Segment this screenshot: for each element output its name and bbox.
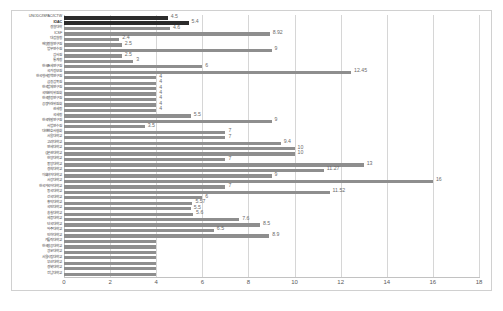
x-tick-label: 12 bbox=[337, 279, 344, 285]
x-tick-label: 16 bbox=[430, 279, 437, 285]
bar-value-label: 7 bbox=[228, 155, 231, 161]
bar bbox=[64, 240, 156, 243]
bar-value-label: 4.6 bbox=[173, 24, 180, 30]
bar bbox=[64, 202, 192, 205]
x-axis-line bbox=[64, 277, 480, 278]
bar-value-label: 12.45 bbox=[354, 67, 367, 73]
bar bbox=[64, 174, 272, 177]
bar bbox=[64, 147, 295, 150]
x-tick-label: 6 bbox=[201, 279, 204, 285]
category-label: 전남대학교 bbox=[47, 271, 62, 276]
bar bbox=[64, 191, 330, 194]
bar-value-label: 6 bbox=[205, 62, 208, 68]
gridline bbox=[479, 15, 480, 277]
bar-value-label: 2.5 bbox=[125, 40, 132, 46]
bar bbox=[64, 16, 168, 20]
x-tick-label: 2 bbox=[108, 279, 111, 285]
bar bbox=[64, 136, 225, 139]
bar bbox=[64, 142, 281, 145]
x-tick-label: 18 bbox=[476, 279, 483, 285]
bar bbox=[64, 223, 260, 226]
bar bbox=[64, 245, 156, 248]
bar-value-label: 9 bbox=[275, 116, 278, 122]
bar bbox=[64, 21, 189, 25]
x-tick-label: 10 bbox=[291, 279, 298, 285]
bar bbox=[64, 158, 225, 161]
bar bbox=[64, 98, 156, 101]
bar bbox=[64, 218, 239, 221]
bar bbox=[64, 76, 156, 79]
bar bbox=[64, 71, 351, 74]
bar bbox=[64, 262, 156, 265]
bar-value-label: 7 bbox=[228, 133, 231, 139]
bar-value-label: 9 bbox=[275, 45, 278, 51]
bar-value-label: 5.4 bbox=[192, 18, 199, 24]
bar bbox=[64, 114, 191, 117]
bar bbox=[64, 43, 122, 46]
bar-value-label: 5.5 bbox=[194, 111, 201, 117]
bar bbox=[64, 120, 272, 123]
bar-value-label: 11.27 bbox=[327, 165, 340, 171]
bar bbox=[64, 229, 214, 232]
bar bbox=[64, 82, 156, 85]
bar-value-label: 10 bbox=[298, 149, 304, 155]
bar bbox=[64, 169, 324, 172]
bar bbox=[64, 54, 122, 57]
bar-value-label: 4 bbox=[159, 105, 162, 111]
bar-value-label: 7.6 bbox=[242, 215, 249, 221]
bar bbox=[64, 131, 225, 134]
bar bbox=[64, 125, 145, 128]
bar-value-label: 5.6 bbox=[196, 209, 203, 215]
bar bbox=[64, 32, 270, 35]
bar bbox=[64, 180, 433, 183]
bar bbox=[64, 49, 272, 52]
bar-value-label: 7 bbox=[228, 182, 231, 188]
bar-value-label: 16 bbox=[436, 176, 442, 182]
chart-frame: UNODC/ISPAC/ICTWIOAC경찰대학ICSF대검찰청해양경찰연구원법… bbox=[11, 10, 492, 291]
bar bbox=[64, 163, 364, 166]
bar bbox=[64, 196, 202, 199]
bar bbox=[64, 109, 156, 112]
bar-value-label: 8.5 bbox=[263, 220, 270, 226]
bar-value-label: 8.92 bbox=[273, 29, 283, 35]
bar bbox=[64, 213, 193, 216]
bar bbox=[64, 65, 202, 68]
category-axis: UNODC/ISPAC/ICTWIOAC경찰대학ICSF대검찰청해양경찰연구원법… bbox=[12, 15, 62, 277]
bar bbox=[64, 267, 156, 270]
bar bbox=[64, 185, 225, 188]
x-tick-label: 4 bbox=[155, 279, 158, 285]
x-tick-label: 8 bbox=[247, 279, 250, 285]
bar bbox=[64, 103, 156, 106]
bar-value-label: 9.4 bbox=[284, 138, 291, 144]
x-tick-label: 0 bbox=[62, 279, 65, 285]
bar bbox=[64, 38, 119, 41]
bar bbox=[64, 234, 269, 237]
bar-value-label: 6.5 bbox=[217, 225, 224, 231]
bar-value-label: 2.5 bbox=[125, 51, 132, 57]
bar-value-label: 3 bbox=[136, 56, 139, 62]
bar bbox=[64, 60, 133, 63]
bar bbox=[64, 87, 156, 90]
bar-value-label: 9 bbox=[275, 171, 278, 177]
plot-area: 4.55.44.68.922.42.592.53612.4544444445.5… bbox=[64, 15, 479, 277]
bar-value-label: 3.5 bbox=[148, 122, 155, 128]
bar bbox=[64, 92, 156, 95]
bar bbox=[64, 27, 170, 30]
bar-value-label: 11.52 bbox=[333, 187, 346, 193]
bar-value-label: 8.9 bbox=[272, 231, 279, 237]
bar bbox=[64, 273, 156, 276]
x-tick-label: 14 bbox=[383, 279, 390, 285]
bar-value-label: 4.5 bbox=[171, 13, 178, 19]
x-axis-ticks: 024681012141618 bbox=[64, 279, 479, 291]
bar-value-label: 13 bbox=[367, 160, 373, 166]
bar bbox=[64, 256, 156, 259]
bar bbox=[64, 152, 295, 155]
bar bbox=[64, 207, 191, 210]
bar bbox=[64, 251, 156, 254]
